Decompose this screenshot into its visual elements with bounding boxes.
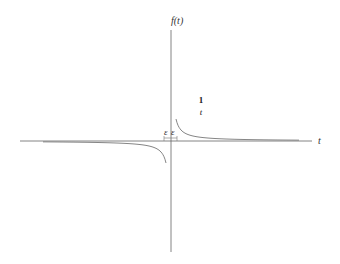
y-axis-label: f(t) xyxy=(171,16,183,26)
epsilon-left-label: ε xyxy=(164,128,168,137)
curve-positive-branch xyxy=(176,119,299,140)
fraction-numerator: 1 xyxy=(196,96,206,105)
fraction-denominator: t xyxy=(196,108,206,117)
x-axis-label: t xyxy=(318,136,321,146)
curve-negative-branch xyxy=(43,142,166,163)
epsilon-right-label: ε xyxy=(171,128,175,137)
plot-canvas xyxy=(0,0,340,264)
